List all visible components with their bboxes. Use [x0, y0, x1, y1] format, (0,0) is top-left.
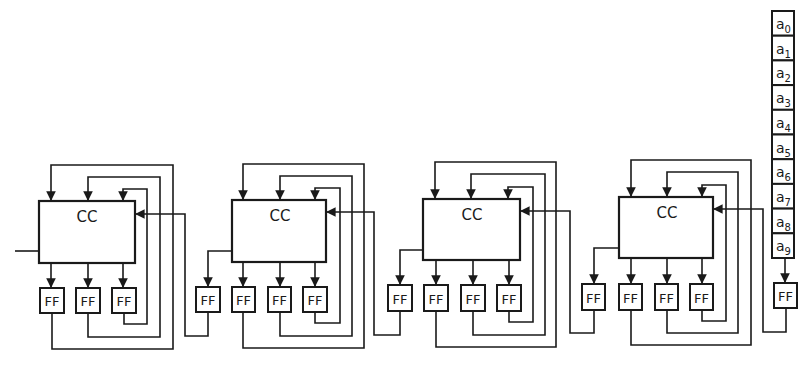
flip-flop-2-1: FF [232, 287, 255, 312]
svg-text:FF: FF [502, 292, 517, 307]
flip-flop-2-3: FF [303, 287, 327, 312]
svg-text:FF: FF [236, 293, 251, 308]
register-cell-a6: a6 [772, 159, 794, 184]
flip-flop-1-1: FF [40, 288, 64, 313]
register-cell-a3: a3 [772, 85, 794, 110]
svg-text:FF: FF [694, 291, 709, 306]
svg-text:FF: FF [272, 293, 287, 308]
svg-text:FF: FF [466, 292, 481, 307]
register-cell-a8: a8 [772, 209, 794, 234]
register-cell-a9: a9 [772, 233, 794, 258]
input-register: a0 a1 a2 a3 a4 a5 a6 a7 [772, 11, 797, 308]
flip-flop-4-3: FF [690, 284, 713, 310]
circuit-diagram: CC FF FF FF CC [0, 0, 809, 371]
cc-label-1: CC [77, 208, 98, 226]
flip-flop-3-2: FF [461, 285, 485, 311]
flip-flop-4-1: FF [619, 284, 642, 310]
svg-text:FF: FF [393, 292, 408, 307]
cc-label-2: CC [270, 207, 291, 225]
block-2: CC FF FF FF FF [196, 164, 364, 348]
flip-flop-1-3: FF [112, 288, 136, 313]
link-4-to-3 [521, 211, 594, 333]
svg-text:FF: FF [623, 291, 638, 306]
flip-flop-3-0: FF [388, 285, 412, 311]
svg-text:FF: FF [308, 293, 323, 308]
svg-text:FF: FF [201, 293, 216, 308]
block-1: CC FF FF FF [15, 165, 173, 349]
svg-text:FF: FF [429, 292, 444, 307]
flip-flop-3-3: FF [497, 285, 521, 311]
svg-text:FF: FF [117, 294, 132, 309]
register-cell-a0: a0 [772, 11, 794, 36]
block-4: CC FF FF FF FF [582, 160, 751, 345]
register-cell-a5: a5 [772, 135, 794, 160]
svg-text:FF: FF [778, 289, 793, 304]
register-cell-a7: a7 [772, 184, 794, 209]
flip-flop-2-2: FF [268, 287, 291, 312]
register-cell-a2: a2 [772, 60, 794, 85]
flip-flop-2-0: FF [196, 287, 220, 312]
register-cell-a1: a1 [772, 36, 794, 61]
svg-text:FF: FF [45, 294, 60, 309]
svg-text:FF: FF [659, 291, 674, 306]
flip-flop-1-2: FF [76, 288, 100, 313]
cc-label-4: CC [657, 204, 678, 222]
register-cell-a4: a4 [772, 110, 794, 135]
flip-flop-4-2: FF [655, 284, 678, 310]
block-3: CC FF FF FF FF [388, 162, 556, 347]
cc-label-3: CC [462, 206, 483, 224]
svg-text:FF: FF [81, 294, 96, 309]
svg-text:FF: FF [586, 291, 601, 306]
register-output-flip-flop: FF [774, 283, 797, 308]
flip-flop-3-1: FF [424, 285, 448, 311]
flip-flop-4-0: FF [582, 284, 605, 310]
